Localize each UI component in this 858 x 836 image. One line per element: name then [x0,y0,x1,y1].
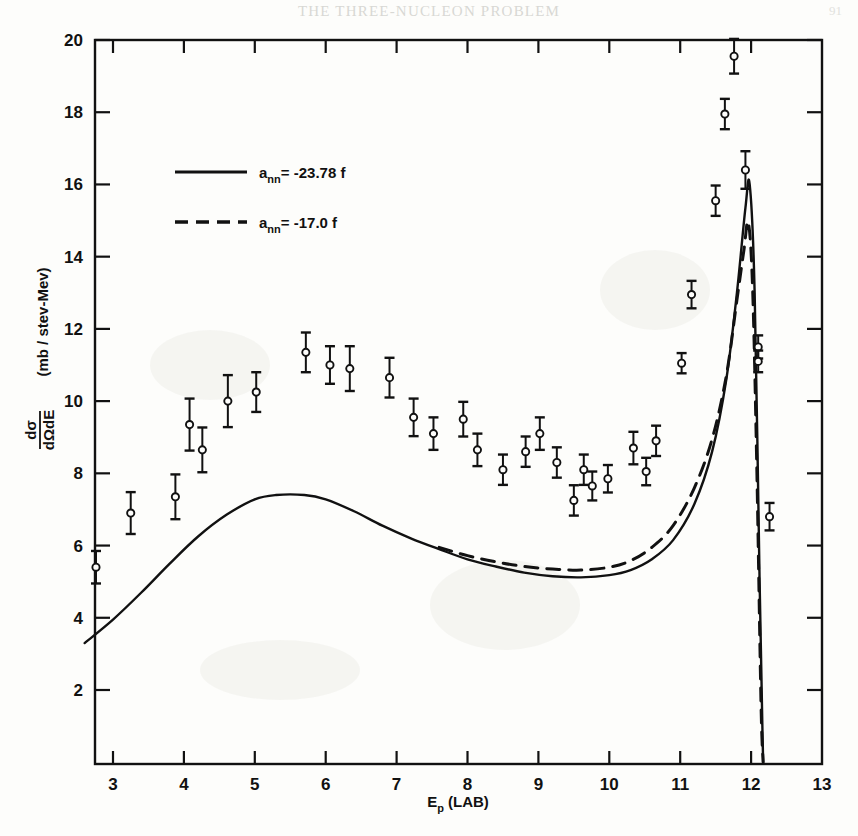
y-tick-label: 10 [64,392,83,411]
curve-ann-17 [439,221,763,762]
marker-open-circle [326,361,333,368]
marker-open-circle [302,349,309,356]
x-tick-label: 12 [742,775,761,794]
marker-open-circle [721,110,728,117]
marker-open-circle [186,421,193,428]
data-point [651,426,661,456]
x-tick-label: 13 [813,775,832,794]
x-tick-label: 7 [392,775,401,794]
y-tick-label: 2 [74,681,83,700]
marker-open-circle [652,437,659,444]
x-tick-label: 9 [534,775,543,794]
y-tick-label: 14 [64,248,83,267]
data-point [223,375,233,427]
marker-open-circle [678,360,685,367]
legend-subscript: nn [267,223,281,235]
model-curves [85,180,764,763]
marker-open-circle [643,468,650,475]
x-tick-label: 6 [321,775,330,794]
data-point [91,551,101,584]
y-title-numerator: dσ [22,420,39,439]
data-point [687,281,697,308]
marker-open-circle [522,448,529,455]
marker-open-circle [553,459,560,466]
marker-open-circle [536,430,543,437]
x-axis: 345678910111213 [108,40,831,794]
data-point [569,485,579,515]
y-axis-title: dσdΩdE(mb / stev-Mev) [22,267,57,450]
legend-label: ann= -17.0 f [259,214,338,235]
marker-open-circle [253,388,260,395]
data-point [409,399,419,437]
y-tick-label: 8 [74,464,83,483]
y-title-denominator: dΩdE [40,410,57,450]
data-point [428,417,438,450]
marker-open-circle [460,416,467,423]
marker-open-circle [430,430,437,437]
x-axis-title-text: Ep (LAB) [427,793,489,814]
x-tick-label: 11 [671,775,689,794]
data-point [552,447,562,477]
x-tick-label: 8 [463,775,472,794]
marker-open-circle [92,564,99,571]
y-tick-label: 6 [74,537,83,556]
data-point [641,458,651,485]
data-point [345,346,355,391]
data-point [720,99,730,129]
data-point [521,437,531,467]
legend-subscript: nn [267,173,281,185]
x-tick-label: 5 [250,775,259,794]
legend: ann= -23.78 fann= -17.0 f [175,164,346,235]
data-point [472,434,482,467]
data-point [325,346,335,384]
marker-open-circle [499,466,506,473]
data-point [185,399,195,451]
curve-ann-2378 [85,180,764,763]
x-title-tail: (LAB) [444,793,489,810]
marker-open-circle [172,493,179,500]
marker-open-circle [386,374,393,381]
marker-open-circle [630,444,637,451]
marker-open-circle [712,197,719,204]
marker-open-circle [410,414,417,421]
data-point [535,417,545,450]
data-point [170,474,180,519]
data-point [251,372,261,412]
x-title-E: E [427,793,437,810]
y-tick-label: 18 [64,103,83,122]
legend-label: ann= -23.78 f [259,164,346,185]
data-point [729,39,739,74]
legend-value: = -17.0 f [281,214,338,231]
marker-open-circle [688,291,695,298]
marker-open-circle [346,365,353,372]
y-tick-label: 4 [74,609,84,628]
data-point [628,432,638,465]
marker-open-circle [589,482,596,489]
data-point [385,358,395,398]
marker-open-circle [766,513,773,520]
data-point [197,427,207,472]
data-point [587,472,597,501]
cross-section-chart: 3456789101112132468101214161820ann= -23.… [0,0,858,836]
marker-open-circle [755,358,762,365]
legend-value: = -23.78 f [281,164,347,181]
data-point [498,455,508,485]
x-tick-label: 4 [179,775,189,794]
marker-open-circle [742,166,749,173]
x-axis-title: Ep (LAB) [427,793,489,814]
y-tick-label: 20 [64,31,83,50]
x-tick-label: 3 [108,775,117,794]
marker-open-circle [580,466,587,473]
marker-open-circle [199,446,206,453]
data-point [458,402,468,437]
marker-open-circle [604,475,611,482]
marker-open-circle [570,497,577,504]
data-point [765,503,775,530]
marker-open-circle [127,509,134,516]
marker-open-circle [474,446,481,453]
y-axis: 2468101214161820 [64,31,822,700]
marker-open-circle [224,398,231,405]
data-point [301,333,311,373]
data-points [91,39,775,584]
data-point [579,455,589,485]
